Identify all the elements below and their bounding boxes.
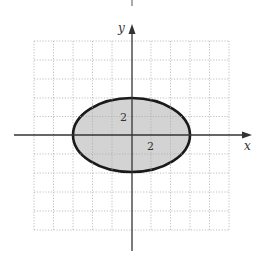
y-axis-arrow-icon bbox=[129, 24, 136, 34]
x-tick-label-2: 2 bbox=[147, 140, 154, 153]
x-axis-label: x bbox=[244, 139, 251, 153]
x-axis-arrow-icon bbox=[242, 132, 252, 139]
y-axis-label: y bbox=[117, 21, 125, 35]
y-tick-label-2: 2 bbox=[120, 111, 127, 124]
ellipse-figure: x y 2 2 bbox=[0, 0, 258, 254]
